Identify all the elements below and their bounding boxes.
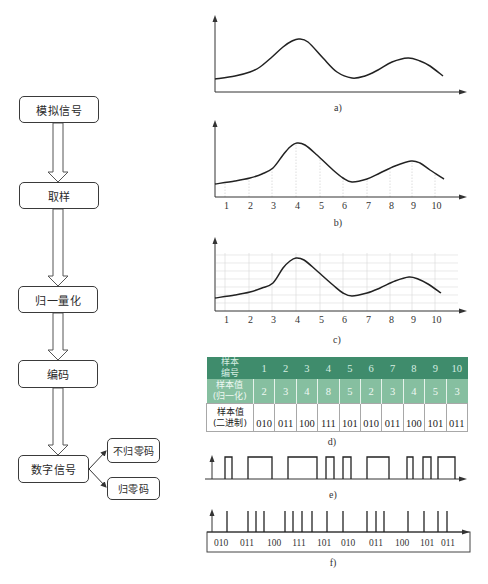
binary-code-label: 111 <box>292 538 306 548</box>
x-tick-label: 7 <box>366 200 371 211</box>
table-cell: 101 <box>339 404 360 432</box>
table-cell: 100 <box>403 404 424 432</box>
x-tick-label: 6 <box>342 200 347 211</box>
x-tick-label: 1 <box>224 200 229 211</box>
table-cell: 1 <box>254 357 275 379</box>
y-axis-arrowhead-icon <box>213 120 218 127</box>
x-tick-label: 4 <box>295 314 300 325</box>
x-tick-label: 10 <box>432 200 442 211</box>
flow-step-label: 取样 <box>48 188 71 204</box>
x-tick-label: 3 <box>271 314 276 325</box>
flow-output-rz: 归零码 <box>107 477 160 500</box>
table-cell: 6 <box>360 357 381 379</box>
table-cell: 2 <box>275 357 296 379</box>
table-cell: 011 <box>446 404 467 432</box>
binary-code-label: 100 <box>267 538 282 548</box>
x-tick-label: 5 <box>319 200 324 211</box>
x-axis-arrowhead-icon <box>459 477 467 482</box>
row-header-line: (归一化) <box>207 391 254 402</box>
binary-code-label: 010 <box>214 538 229 548</box>
flow-step-encoding: 编码 <box>18 360 98 388</box>
x-axis-arrowhead-icon <box>459 195 467 200</box>
table-cell: 010 <box>254 404 275 432</box>
flow-output-nrz: 不归零码 <box>107 438 160 463</box>
arrow-down-icon <box>48 388 68 455</box>
signal-curve <box>215 143 444 184</box>
row-header: 样本值(归一化) <box>207 379 254 404</box>
row-header-line: 样本 <box>207 357 254 368</box>
panel-d: d) <box>328 436 336 448</box>
row-header: 样本值(二进制) <box>207 404 254 432</box>
x-tick-label: 10 <box>432 314 442 325</box>
x-tick-label: 6 <box>342 314 347 325</box>
table-cell: 2 <box>360 379 381 404</box>
nrz-pulses <box>225 457 455 479</box>
branch-arrow-nrz-icon <box>89 451 106 469</box>
x-axis-arrowhead-icon <box>459 309 467 314</box>
panel-f: 010011100111101010011100101011f) <box>207 509 470 569</box>
panel-caption: f) <box>330 557 337 569</box>
table-cell: 101 <box>425 404 446 432</box>
signal-curve <box>215 39 443 79</box>
flow-step-label: 编码 <box>47 366 70 382</box>
flow-step-label: 模拟信号 <box>36 102 82 118</box>
table-cell: 100 <box>296 404 317 432</box>
row-header-line: 样本值 <box>207 407 253 418</box>
y-axis-arrowhead-icon <box>210 455 215 462</box>
panel-e: e) <box>205 455 467 501</box>
x-tick-label: 8 <box>389 314 394 325</box>
panel-caption: b) <box>334 217 342 229</box>
flow-output-label: 不归零码 <box>113 443 155 458</box>
table-cell: 8 <box>403 357 424 379</box>
x-tick-label: 1 <box>224 314 229 325</box>
panel-a: a) <box>213 15 468 114</box>
flow-step-sampling: 取样 <box>19 182 99 209</box>
table-cell: 9 <box>425 357 446 379</box>
table-cell: 5 <box>339 357 360 379</box>
table-cell: 2 <box>254 379 275 404</box>
sample-table: 样本编号12345678910样本值(归一化)2348523453样本值(二进制… <box>206 357 468 432</box>
flow-output-label: 归零码 <box>118 481 150 496</box>
row-header-line: (二进制) <box>207 418 253 429</box>
x-axis-arrowhead-icon <box>459 90 467 95</box>
flow-step-label: 归一量化 <box>35 292 81 308</box>
x-tick-label: 3 <box>271 200 276 211</box>
branch-arrow-rz-icon <box>89 469 106 487</box>
y-axis-arrowhead-icon <box>213 15 218 22</box>
binary-code-label: 100 <box>395 538 410 548</box>
table-row: 样本值(归一化)2348523453 <box>207 379 468 404</box>
binary-code-label: 011 <box>441 538 455 548</box>
x-tick-label: 4 <box>295 200 300 211</box>
x-tick-label: 9 <box>411 314 416 325</box>
binary-code-label: 011 <box>369 538 383 548</box>
x-tick-label: 9 <box>411 200 416 211</box>
waveform-panels: a)12345678910b)12345678910c)d)e)01001110… <box>205 15 470 569</box>
table-cell: 5 <box>425 379 446 404</box>
flow-step-quantization: 归一量化 <box>18 286 98 313</box>
flow-step-analog-signal: 模拟信号 <box>19 96 99 123</box>
table-cell: 011 <box>382 404 403 432</box>
arrow-down-icon <box>48 123 68 182</box>
table-cell: 3 <box>382 379 403 404</box>
binary-code-label: 101 <box>317 538 332 548</box>
arrow-down-icon <box>48 209 68 286</box>
binary-code-label: 010 <box>341 538 356 548</box>
x-tick-label: 7 <box>366 314 371 325</box>
table-row: 样本值(二进制)010011100111101010011100101011 <box>207 404 468 432</box>
table-cell: 111 <box>318 404 339 432</box>
table-cell: 8 <box>318 379 339 404</box>
table-cell: 010 <box>360 404 381 432</box>
panel-caption: a) <box>334 102 342 114</box>
binary-code-label: 101 <box>420 538 435 548</box>
y-axis-arrowhead-icon <box>210 509 215 516</box>
panel-c: 12345678910c) <box>213 237 468 346</box>
row-header: 样本编号 <box>207 357 254 379</box>
table-cell: 3 <box>275 379 296 404</box>
panel-caption: d) <box>328 436 336 448</box>
table-cell: 4 <box>318 357 339 379</box>
x-tick-label: 2 <box>248 314 253 325</box>
arrow-down-icon <box>48 313 68 360</box>
table-cell: 011 <box>275 404 296 432</box>
branch-arrows <box>89 451 106 487</box>
table-cell: 4 <box>296 379 317 404</box>
